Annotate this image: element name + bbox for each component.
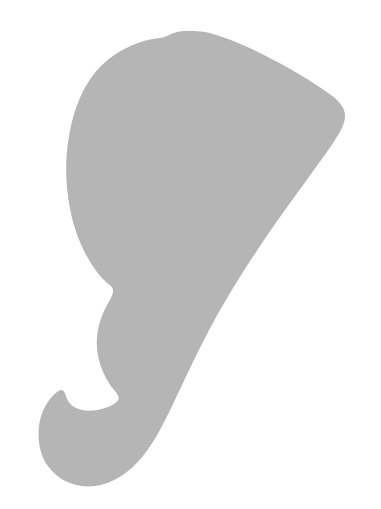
image-canvas <box>0 0 381 509</box>
silhouette-illustration <box>0 0 381 509</box>
